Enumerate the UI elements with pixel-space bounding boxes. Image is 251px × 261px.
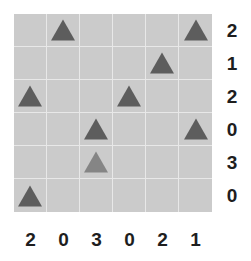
grid-cell-r4-c2[interactable]: [80, 146, 113, 179]
grid-cell-r4-c3[interactable]: [113, 146, 146, 179]
grid-cell-r1-c3[interactable]: [113, 47, 146, 80]
grid-cell-r3-c1[interactable]: [47, 113, 80, 146]
column-clue: 2: [146, 228, 179, 252]
row-clue: 2: [224, 14, 240, 47]
grid-cell-r3-c0[interactable]: [14, 113, 47, 146]
grid-cell-r2-c3[interactable]: [113, 80, 146, 113]
grid-cell-r4-c1[interactable]: [47, 146, 80, 179]
grid-cell-r3-c4[interactable]: [146, 113, 179, 146]
column-clue: 1: [179, 228, 212, 252]
grid-cell-r0-c2[interactable]: [80, 14, 113, 47]
grid-cell-r5-c0[interactable]: [14, 179, 47, 212]
column-clue: 2: [14, 228, 47, 252]
tree-icon: [184, 20, 208, 41]
tree-icon: [51, 20, 75, 41]
grid-cell-r5-c3[interactable]: [113, 179, 146, 212]
grid-cell-r1-c2[interactable]: [80, 47, 113, 80]
grid-cell-r0-c1[interactable]: [47, 14, 80, 47]
row-clue: 2: [224, 80, 240, 113]
grid-cell-r1-c5[interactable]: [179, 47, 212, 80]
column-clue: 0: [47, 228, 80, 252]
tree-icon: [18, 86, 42, 107]
row-clue: 3: [224, 146, 240, 179]
grid-cell-r2-c2[interactable]: [80, 80, 113, 113]
grid-cell-r2-c5[interactable]: [179, 80, 212, 113]
grid-cell-r3-c3[interactable]: [113, 113, 146, 146]
tree-icon: [84, 119, 108, 140]
grid-cell-r0-c3[interactable]: [113, 14, 146, 47]
grid-cell-r2-c1[interactable]: [47, 80, 80, 113]
column-clue: 3: [80, 228, 113, 252]
grid-cell-r0-c0[interactable]: [14, 14, 47, 47]
grid-cell-r3-c5[interactable]: [179, 113, 212, 146]
tree-icon: [117, 86, 141, 107]
grid-cell-r2-c4[interactable]: [146, 80, 179, 113]
row-clue: 0: [224, 179, 240, 212]
row-clue: 1: [224, 47, 240, 80]
puzzle-grid: [14, 14, 212, 212]
grid-cell-r5-c2[interactable]: [80, 179, 113, 212]
grid-cell-r4-c0[interactable]: [14, 146, 47, 179]
grid-cell-r1-c0[interactable]: [14, 47, 47, 80]
tree-icon: [18, 185, 42, 206]
tree-icon: [150, 53, 174, 74]
grid-cell-r4-c4[interactable]: [146, 146, 179, 179]
row-clue: 0: [224, 113, 240, 146]
grid-cell-r5-c4[interactable]: [146, 179, 179, 212]
grid-cell-r1-c4[interactable]: [146, 47, 179, 80]
grid-cell-r2-c0[interactable]: [14, 80, 47, 113]
column-clue: 0: [113, 228, 146, 252]
grid-cell-r5-c5[interactable]: [179, 179, 212, 212]
grid-cell-r0-c5[interactable]: [179, 14, 212, 47]
grid-cell-r0-c4[interactable]: [146, 14, 179, 47]
grid-cell-r1-c1[interactable]: [47, 47, 80, 80]
grid-cell-r3-c2[interactable]: [80, 113, 113, 146]
grid-cell-r5-c1[interactable]: [47, 179, 80, 212]
grid-cell-r4-c5[interactable]: [179, 146, 212, 179]
tree-icon: [84, 152, 108, 173]
tree-icon: [184, 119, 208, 140]
